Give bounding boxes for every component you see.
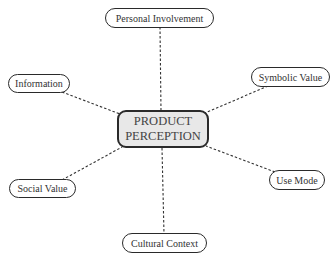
edge-use-mode bbox=[206, 146, 275, 172]
edge-personal-involvement bbox=[160, 27, 161, 111]
edge-information bbox=[62, 92, 120, 114]
node-label: Personal Involvement bbox=[116, 13, 203, 24]
edge-cultural-context bbox=[162, 148, 164, 234]
node-symbolic-value: Symbolic Value bbox=[251, 67, 330, 87]
edge-symbolic-value bbox=[205, 86, 268, 113]
center-label-line1: PRODUCT bbox=[134, 114, 192, 129]
node-label: Social Value bbox=[17, 183, 67, 194]
edge-social-value bbox=[62, 147, 122, 180]
node-use-mode: Use Mode bbox=[269, 170, 325, 190]
node-label: Symbolic Value bbox=[259, 72, 322, 83]
central-node-product-perception: PRODUCT PERCEPTION bbox=[117, 110, 209, 148]
node-social-value: Social Value bbox=[9, 179, 76, 198]
node-label: Cultural Context bbox=[131, 238, 198, 249]
node-personal-involvement: Personal Involvement bbox=[105, 8, 214, 28]
node-label: Use Mode bbox=[276, 175, 317, 186]
node-information: Information bbox=[8, 74, 70, 93]
center-label-line2: PERCEPTION bbox=[125, 129, 201, 144]
node-label: Information bbox=[15, 78, 63, 89]
node-cultural-context: Cultural Context bbox=[122, 233, 207, 253]
